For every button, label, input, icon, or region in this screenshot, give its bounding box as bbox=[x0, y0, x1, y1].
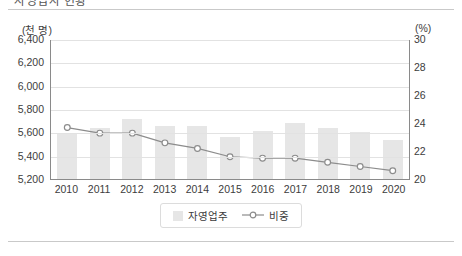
gridline-top bbox=[51, 40, 409, 41]
x-axis-tick-2010: 2010 bbox=[50, 183, 83, 199]
gridline bbox=[51, 110, 409, 111]
gridline bbox=[51, 157, 409, 158]
legend-item-line[interactable]: 비중 bbox=[242, 208, 289, 223]
gridline bbox=[51, 133, 409, 134]
x-axis-tick-2020: 2020 bbox=[377, 183, 410, 199]
legend-bar-label: 자영업주 bbox=[188, 208, 228, 223]
legend-item-bar[interactable]: 자영업주 bbox=[173, 208, 228, 223]
gridline bbox=[51, 63, 409, 64]
right-axis-tick: 24 bbox=[414, 117, 426, 129]
x-axis-tick-2019: 2019 bbox=[345, 183, 378, 199]
line-marker-2018 bbox=[325, 159, 331, 165]
x-axis-tick-2015: 2015 bbox=[214, 183, 247, 199]
left-axis-tick: 6,000 bbox=[0, 80, 44, 92]
header-divider bbox=[8, 9, 454, 10]
left-axis-tick: 5,600 bbox=[0, 126, 44, 138]
left-axis-tick: 5,400 bbox=[0, 150, 44, 162]
left-axis-tick: 6,400 bbox=[0, 33, 44, 45]
legend-line-label: 비중 bbox=[269, 208, 289, 223]
x-axis-tick-2011: 2011 bbox=[83, 183, 116, 199]
line-marker-2013 bbox=[162, 140, 168, 146]
right-axis-tick: 30 bbox=[414, 33, 426, 45]
chart-plot-area bbox=[50, 40, 410, 180]
x-axis-tick-2018: 2018 bbox=[312, 183, 345, 199]
x-axis-tick-2012: 2012 bbox=[115, 183, 148, 199]
line-marker-2020 bbox=[390, 168, 396, 174]
x-axis-tick-2013: 2013 bbox=[148, 183, 181, 199]
right-axis-tick: 20 bbox=[414, 173, 426, 185]
right-axis-tick: 22 bbox=[414, 145, 426, 157]
x-axis-tick-2016: 2016 bbox=[246, 183, 279, 199]
chart-legend: 자영업주 비중 bbox=[160, 203, 302, 228]
left-axis-tick: 5,800 bbox=[0, 103, 44, 115]
x-axis-tick-2017: 2017 bbox=[279, 183, 312, 199]
page-title: 자영업자 현황 bbox=[0, 0, 462, 8]
left-axis-tick: 6,200 bbox=[0, 56, 44, 68]
x-axis-tick-2014: 2014 bbox=[181, 183, 214, 199]
gridline bbox=[51, 87, 409, 88]
right-axis-tick: 28 bbox=[414, 61, 426, 73]
page-title-clipped: 자영업자 현황 bbox=[0, 0, 462, 8]
line-marker-2010 bbox=[64, 125, 70, 131]
footer-divider bbox=[8, 241, 454, 242]
left-axis-tick: 5,200 bbox=[0, 173, 44, 185]
legend-line-marker-icon bbox=[242, 210, 264, 222]
x-axis-ticks: 2010201120122013201420152016201720182019… bbox=[50, 183, 410, 199]
line-marker-2014 bbox=[195, 146, 201, 152]
right-axis-tick: 26 bbox=[414, 89, 426, 101]
line-marker-2019 bbox=[357, 164, 363, 170]
legend-bar-swatch-icon bbox=[173, 211, 183, 221]
